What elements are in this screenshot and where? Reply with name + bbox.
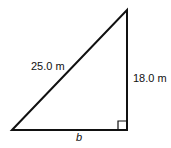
hypotenuse-label: 25.0 m <box>31 60 65 72</box>
vertical-leg-label: 18.0 m <box>133 72 167 84</box>
base-label: b <box>76 131 82 143</box>
triangle <box>12 10 127 130</box>
right-triangle-diagram: 25.0 m 18.0 m b <box>0 0 171 148</box>
right-angle-marker <box>118 121 127 130</box>
